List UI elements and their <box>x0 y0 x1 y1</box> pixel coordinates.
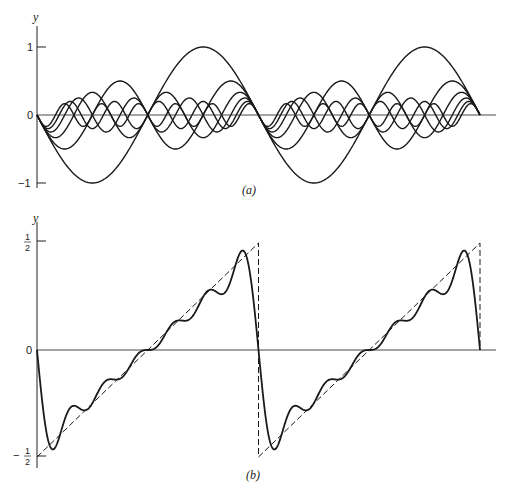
a-y-label: y <box>32 10 39 24</box>
b-tick-mhalf-minus: − <box>13 449 19 461</box>
a-component-curves <box>37 47 480 183</box>
b-tick-label-0: 0 <box>26 344 32 356</box>
panel-a: y 1 0 −1 (a) <box>18 10 496 197</box>
b-y-label: y <box>32 211 39 225</box>
a-caption: (a) <box>242 183 256 197</box>
b-caption: (b) <box>246 468 260 482</box>
b-tick-mhalf-den: 2 <box>25 457 30 467</box>
panel-b: y 1 2 0 − 1 2 (b) <box>13 211 496 482</box>
b-tick-mhalf-num: 1 <box>25 446 30 456</box>
figure: y 1 0 −1 (a) y 1 2 0 − 1 2 (b) <box>0 0 508 493</box>
a-tick-label-1: 1 <box>27 41 33 53</box>
a-tick-label-0: 0 <box>27 109 33 121</box>
b-tick-half-den: 2 <box>25 243 30 253</box>
b-tick-half-num: 1 <box>25 232 30 242</box>
a-tick-label-m1: −1 <box>18 177 31 189</box>
